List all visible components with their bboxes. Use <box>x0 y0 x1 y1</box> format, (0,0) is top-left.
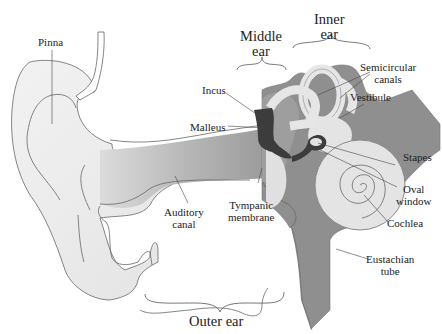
label-eustachian-tube: Eustachian tube <box>366 253 414 277</box>
ear-diagram: Pinna Incus Malleus Middle ear Inner ear… <box>0 0 442 334</box>
label-malleus: Malleus <box>190 121 225 133</box>
label-cochlea: Cochlea <box>387 217 423 229</box>
label-inner-ear: Inner ear <box>314 12 345 42</box>
label-incus: Incus <box>202 84 226 96</box>
label-middle-ear: Middle ear <box>240 29 282 59</box>
ear-illustration <box>0 0 442 334</box>
outer-ear-bracket <box>145 292 284 312</box>
label-tympanic-membrane: Tympanic membrane <box>228 199 274 223</box>
label-auditory-canal: Auditory canal <box>164 206 204 230</box>
label-oval-window: Oval window <box>396 183 431 207</box>
auditory-canal-shape <box>100 128 268 208</box>
label-outer-ear: Outer ear <box>189 314 243 329</box>
label-stapes: Stapes <box>403 151 432 163</box>
label-pinna: Pinna <box>38 36 63 48</box>
label-semicircular-canals: Semicircular canals <box>360 61 416 85</box>
label-vestibule: Vestibule <box>350 91 391 103</box>
